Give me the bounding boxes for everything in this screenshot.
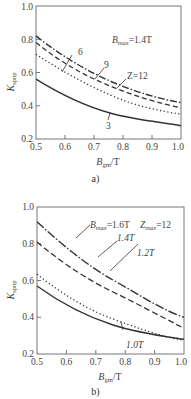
curve-b16 xyxy=(37,222,184,318)
svg-text:0.6: 0.6 xyxy=(60,357,72,367)
svg-text:1.0: 1.0 xyxy=(21,2,33,12)
annotation-bmax-a: Bmax=1.4T xyxy=(112,35,152,46)
annotation-bmax-b: Bmax=1.6T xyxy=(90,220,130,231)
annotation-zmax-b: Zmax=12 xyxy=(140,220,171,231)
y-tick-labels-b: 0.2 0.4 0.6 0.8 1.0 xyxy=(22,202,34,359)
svg-text:0.8: 0.8 xyxy=(119,357,131,367)
svg-text:1.2T: 1.2T xyxy=(137,248,155,258)
svg-text:0.2: 0.2 xyxy=(21,134,33,144)
curve-b10 xyxy=(37,286,184,339)
svg-text:0.8: 0.8 xyxy=(21,35,33,45)
svg-text:0.2: 0.2 xyxy=(22,349,34,359)
svg-text:3: 3 xyxy=(106,121,111,131)
svg-text:1.0T: 1.0T xyxy=(126,340,144,350)
svg-text:1.0: 1.0 xyxy=(172,142,184,152)
x-axis-label-a: Bgm/T xyxy=(96,156,119,168)
caption-b: b) xyxy=(0,386,191,397)
x-tick-labels-b: 0.5 0.6 0.7 0.8 0.9 1.0 xyxy=(31,357,187,367)
svg-text:Z=12: Z=12 xyxy=(127,71,148,81)
caption-a: a) xyxy=(0,173,191,184)
svg-text:0.8: 0.8 xyxy=(22,239,34,249)
chart-panel-a: 0.5 0.6 0.7 0.8 0.9 1.0 0.2 0.4 0.6 0.8 … xyxy=(0,0,191,200)
svg-text:1.4T: 1.4T xyxy=(117,233,135,243)
svg-text:0.6: 0.6 xyxy=(59,142,71,152)
curve-b14 xyxy=(37,242,184,328)
svg-text:0.6: 0.6 xyxy=(21,68,33,78)
y-axis-label-b: Kspop xyxy=(5,281,17,301)
svg-text:6: 6 xyxy=(78,47,83,57)
x-axis-label-b: Bgm/T xyxy=(98,371,121,383)
svg-text:0.8: 0.8 xyxy=(117,142,129,152)
x-ticks-b xyxy=(37,244,155,354)
chart-b-svg: 0.5 0.6 0.7 0.8 0.9 1.0 0.2 0.4 0.6 0.8 … xyxy=(0,200,191,399)
x-tick-labels-a: 0.5 0.6 0.7 0.8 0.9 1.0 xyxy=(30,142,184,152)
chart-panel-b: 0.5 0.6 0.7 0.8 0.9 1.0 0.2 0.4 0.6 0.8 … xyxy=(0,200,191,399)
chart-a-svg: 0.5 0.6 0.7 0.8 0.9 1.0 0.2 0.4 0.6 0.8 … xyxy=(0,0,191,200)
y-tick-labels-a: 0.2 0.4 0.6 0.8 1.0 xyxy=(21,2,33,144)
curve-labels-b: 1.4T 1.2T 1.0T xyxy=(117,233,155,350)
svg-text:9: 9 xyxy=(104,60,109,70)
svg-text:1.0: 1.0 xyxy=(22,202,34,212)
svg-text:1.0: 1.0 xyxy=(175,357,187,367)
svg-text:0.6: 0.6 xyxy=(22,276,34,286)
svg-text:0.7: 0.7 xyxy=(88,142,100,152)
svg-text:0.7: 0.7 xyxy=(90,357,102,367)
svg-text:0.9: 0.9 xyxy=(149,357,161,367)
y-axis-label-a: Kspop xyxy=(5,73,17,93)
svg-text:0.9: 0.9 xyxy=(146,142,158,152)
svg-text:0.4: 0.4 xyxy=(21,101,33,111)
svg-text:0.4: 0.4 xyxy=(22,312,34,322)
